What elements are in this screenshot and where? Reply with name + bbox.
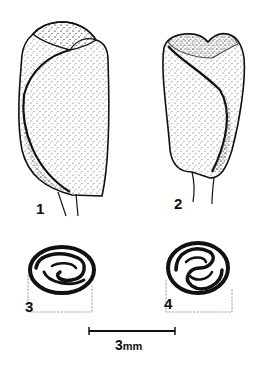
- figure-2-label: 2: [174, 195, 182, 212]
- scale-value: 3: [115, 337, 123, 353]
- figure-4-cross-section: [166, 243, 232, 312]
- figure-3-cross-section: [28, 247, 94, 312]
- figure-1-bud: [19, 22, 109, 216]
- figure-1-label: 1: [36, 200, 44, 217]
- figure-3-label: 3: [25, 298, 33, 315]
- scale-bar: [89, 327, 175, 335]
- figure-2-bud: [163, 33, 244, 204]
- scale-bar-label: 3mm: [115, 337, 142, 353]
- illustration-canvas: [0, 0, 261, 366]
- figure-4-label: 4: [164, 295, 172, 312]
- scale-unit: mm: [123, 340, 143, 352]
